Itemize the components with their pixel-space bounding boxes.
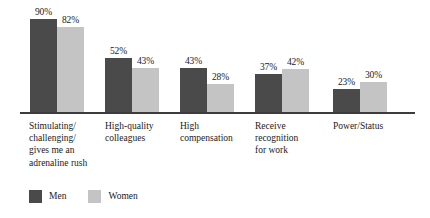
bar-men[interactable]: 43%	[180, 68, 207, 113]
category-label-receive-recognition: Receive recognition for work	[255, 120, 327, 157]
category-label-line: recognition	[255, 132, 327, 144]
bar-value-men: 43%	[185, 56, 202, 66]
bar-pair: 52% 43%	[105, 8, 159, 113]
category-label-line: for work	[255, 144, 327, 156]
bar-men[interactable]: 23%	[333, 89, 360, 113]
bar-value-women: 28%	[212, 72, 229, 82]
bar-pair: 90% 82%	[30, 8, 84, 113]
category-label-high-quality-colleagues: High-quality colleagues	[105, 120, 177, 144]
legend-swatch-women-icon	[88, 190, 101, 203]
category-label-line: High-quality	[105, 120, 177, 132]
legend-label-men: Men	[49, 191, 66, 202]
bar-value-women: 43%	[137, 56, 154, 66]
category-label-power-status: Power/Status	[333, 120, 413, 132]
category-label-line: compensation	[180, 132, 252, 144]
bar-men[interactable]: 90%	[30, 19, 57, 114]
bar-women[interactable]: 28%	[207, 84, 234, 113]
category-label-line: challenging/	[29, 132, 107, 144]
category-label-line: Stimulating/	[29, 120, 107, 132]
bar-chart: 90% 82% 52% 43% 43%	[0, 0, 430, 218]
legend-item-women[interactable]: Women	[88, 190, 137, 203]
category-label-stimulating-challenging: Stimulating/ challenging/ gives me an ad…	[29, 120, 107, 169]
bar-value-men: 90%	[35, 7, 52, 17]
category-label-line: adrenaline rush	[29, 157, 107, 169]
bar-value-women: 82%	[62, 15, 79, 25]
bar-women[interactable]: 30%	[360, 82, 387, 114]
legend: Men Women	[29, 190, 160, 203]
bar-men[interactable]: 37%	[255, 74, 282, 113]
bar-value-women: 42%	[287, 57, 304, 67]
x-axis-baseline	[20, 112, 415, 114]
category-label-high-compensation: High compensation	[180, 120, 252, 144]
bar-value-men: 52%	[110, 46, 127, 56]
category-label-line: colleagues	[105, 132, 177, 144]
category-axis-labels: Stimulating/ challenging/ gives me an ad…	[0, 120, 430, 180]
bar-women[interactable]: 82%	[57, 27, 84, 113]
legend-label-women: Women	[108, 191, 137, 202]
bar-pair: 37% 42%	[255, 8, 309, 113]
plot-area: 90% 82% 52% 43% 43%	[20, 8, 415, 113]
bar-men[interactable]: 52%	[105, 58, 132, 113]
category-label-line: Power/Status	[333, 120, 413, 132]
legend-swatch-men-icon	[29, 190, 42, 203]
bar-value-men: 37%	[260, 62, 277, 72]
bar-pair: 23% 30%	[333, 8, 387, 113]
bar-women[interactable]: 43%	[132, 68, 159, 113]
bar-women[interactable]: 42%	[282, 69, 309, 113]
bar-value-men: 23%	[338, 77, 355, 87]
category-label-line: High	[180, 120, 252, 132]
category-label-line: Receive	[255, 120, 327, 132]
legend-item-men[interactable]: Men	[29, 190, 66, 203]
bar-pair: 43% 28%	[180, 8, 234, 113]
category-label-line: gives me an	[29, 144, 107, 156]
bar-value-women: 30%	[365, 70, 382, 80]
